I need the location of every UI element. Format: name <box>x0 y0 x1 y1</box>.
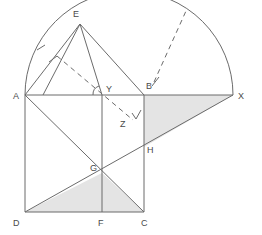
vertex-label-X: X <box>238 91 244 101</box>
vertex-label-F: F <box>98 218 104 228</box>
arrow-marker-at-Z <box>132 110 141 119</box>
dashed-B-to-arc-upper-right <box>154 11 186 82</box>
tick-marks-group <box>37 45 159 86</box>
vertex-label-B: B <box>146 81 152 91</box>
segment-EY <box>80 24 102 95</box>
segment-DX <box>25 95 233 212</box>
solid-lines-group <box>25 24 233 212</box>
tick-on-segment-AE <box>49 56 57 62</box>
vertex-label-Y: Y <box>106 84 112 94</box>
tick-on-arc-AE <box>37 45 45 50</box>
geometry-figure-root: A B C D E F G H X Y Z <box>0 0 262 235</box>
vertex-label-H: H <box>147 145 154 155</box>
vertex-label-A: A <box>13 91 19 101</box>
vertex-label-D: D <box>13 218 20 228</box>
geometry-figure-svg: A B C D E F G H X Y Z <box>0 0 262 235</box>
segment-E-to-AX <box>43 24 80 95</box>
semicircle-arc <box>25 0 233 95</box>
vertex-label-Z: Z <box>120 119 126 129</box>
vertex-label-E: E <box>73 9 79 19</box>
vertex-label-C: C <box>141 218 148 228</box>
vertex-label-G: G <box>90 163 97 173</box>
